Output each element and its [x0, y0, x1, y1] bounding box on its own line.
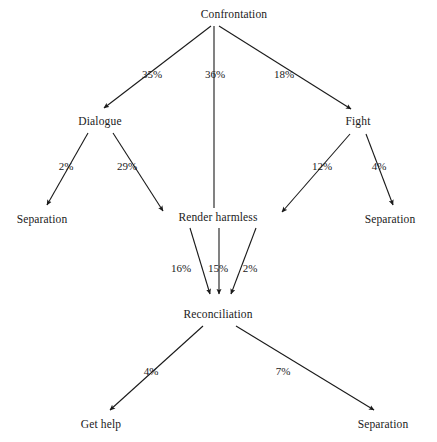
- node-separation-right: Separation: [365, 214, 416, 226]
- edge-dialogue-render-harmless: [113, 133, 163, 211]
- edge-label-render-harmless-reconciliation-15: 15%: [208, 263, 228, 274]
- edge-label-reconciliation-get-help: 4%: [144, 366, 159, 377]
- node-dialogue: Dialogue: [78, 116, 121, 128]
- edge-label-confrontation-render-harmless: 36%: [205, 69, 225, 80]
- node-fight: Fight: [345, 116, 370, 128]
- edge-label-fight-render-harmless: 12%: [312, 161, 332, 172]
- flowchart-diagram: Confrontation Dialogue Fight Separation …: [0, 0, 437, 442]
- node-separation-left: Separation: [17, 214, 68, 226]
- edge-fight-render-harmless: [282, 134, 350, 212]
- node-get-help: Get help: [81, 419, 121, 431]
- edge-label-render-harmless-reconciliation-2: 2%: [243, 263, 258, 274]
- edge-label-render-harmless-reconciliation-16: 16%: [171, 263, 191, 274]
- edge-label-fight-separation-right: 4%: [372, 161, 387, 172]
- node-separation-bottom: Separation: [358, 419, 409, 431]
- edge-label-dialogue-separation-left: 2%: [59, 161, 74, 172]
- node-reconciliation: Reconciliation: [183, 309, 252, 321]
- edge-label-reconciliation-separation-bottom: 7%: [276, 366, 291, 377]
- edge-reconciliation-separation-bottom: [236, 326, 374, 410]
- edge-label-confrontation-fight: 18%: [274, 69, 294, 80]
- node-render-harmless: Render harmless: [178, 212, 257, 224]
- edge-label-dialogue-render-harmless: 29%: [117, 161, 137, 172]
- edge-label-confrontation-dialogue: 35%: [142, 69, 162, 80]
- node-confrontation: Confrontation: [201, 9, 267, 21]
